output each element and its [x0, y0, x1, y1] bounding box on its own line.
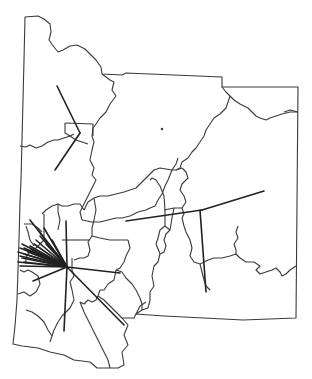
inner-boundary [84, 168, 172, 210]
flow-line [67, 267, 124, 325]
flow-line [67, 267, 120, 273]
inner-boundary [80, 302, 110, 368]
inner-boundary [176, 168, 188, 218]
inner-boundary [222, 87, 298, 120]
outer-boundary [13, 16, 298, 368]
flow-map [0, 0, 312, 379]
inner-boundary [18, 270, 40, 296]
inner-boundary [26, 226, 34, 246]
flow-line [202, 191, 264, 210]
inner-boundary [65, 123, 74, 136]
inner-boundary [234, 226, 238, 254]
inner-boundary [26, 310, 52, 342]
inner-boundary [182, 218, 240, 264]
inner-boundary [136, 302, 146, 314]
inner-boundary [156, 244, 160, 254]
flow-line [57, 86, 80, 133]
inner-boundary [98, 296, 122, 318]
inner-boundary [92, 236, 128, 240]
point-marker [161, 128, 163, 130]
inner-boundary [172, 96, 230, 170]
inner-boundary [20, 136, 88, 148]
inner-boundary [42, 204, 84, 214]
inner-boundary [240, 258, 296, 276]
flow-line [33, 267, 67, 281]
inner-boundary [165, 226, 170, 230]
inner-boundary [116, 240, 130, 270]
flow-lines [18, 86, 264, 331]
inner-boundary [150, 178, 165, 210]
point-markers [161, 128, 163, 130]
flow-line [200, 210, 206, 292]
flow-line [64, 267, 67, 331]
inner-boundary [136, 208, 174, 314]
flow-line [66, 221, 67, 267]
region-boundaries [13, 16, 298, 368]
flow-line [126, 210, 202, 221]
inner-boundary [58, 204, 60, 230]
flow-line [55, 133, 80, 170]
inner-boundary [80, 74, 116, 220]
inner-boundary [116, 270, 142, 310]
inner-boundary [164, 208, 182, 210]
inner-boundary [172, 158, 178, 170]
